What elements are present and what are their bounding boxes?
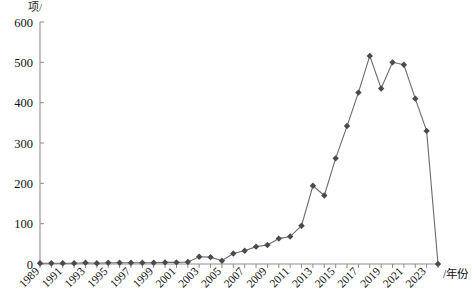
data-point-marker	[105, 260, 111, 266]
y-tick-label: 100	[14, 217, 33, 231]
x-tick-label: 2023	[403, 265, 428, 290]
data-series	[37, 53, 441, 268]
y-axis: 0100200300400500600	[14, 16, 44, 272]
data-point-marker	[355, 89, 361, 95]
x-tick-label: 2003	[176, 265, 201, 290]
x-tick-label: 1999	[130, 265, 155, 290]
y-tick-label: 400	[14, 96, 33, 110]
x-tick-label: 2007	[221, 265, 246, 290]
data-point-marker	[196, 254, 202, 260]
x-tick-label: 2005	[199, 265, 224, 290]
y-tick-label: 600	[14, 16, 33, 30]
data-point-marker	[389, 59, 395, 65]
x-tick-label: 2009	[244, 265, 269, 290]
x-tick-label: 2019	[358, 265, 383, 290]
data-point-marker	[71, 260, 77, 266]
data-point-marker	[230, 250, 236, 256]
data-point-marker	[241, 247, 247, 253]
data-point-marker	[48, 260, 54, 266]
data-point-marker	[207, 254, 213, 260]
x-tick-label: 2001	[153, 265, 178, 290]
x-tick-label: 2021	[381, 265, 406, 290]
data-point-marker	[401, 62, 407, 68]
x-tick-label: 2015	[312, 265, 337, 290]
x-tick-label: 1989	[17, 265, 42, 290]
data-point-marker	[378, 85, 384, 91]
x-axis: 1989199119931995199719992001200320052007…	[17, 264, 440, 290]
data-point-marker	[435, 261, 441, 267]
data-point-marker	[151, 260, 157, 266]
data-point-marker	[423, 128, 429, 134]
axis-captions: 项//年份	[28, 1, 469, 280]
data-point-marker	[264, 242, 270, 248]
x-tick-label: 2011	[267, 265, 292, 290]
data-point-marker	[94, 260, 100, 266]
data-point-marker	[412, 95, 418, 101]
line-chart: 0100200300400500600 19891991199319951997…	[0, 0, 472, 304]
x-axis-caption: /年份	[443, 267, 469, 280]
data-point-marker	[173, 259, 179, 265]
x-tick-label: 1995	[85, 265, 110, 290]
data-point-marker	[116, 260, 122, 266]
data-point-marker	[367, 53, 373, 59]
chart-canvas: 0100200300400500600 19891991199319951997…	[0, 0, 472, 304]
x-tick-label: 1997	[108, 265, 133, 290]
x-tick-label: 2013	[290, 265, 315, 290]
data-point-marker	[344, 123, 350, 129]
x-tick-label: 1991	[39, 265, 64, 290]
data-point-marker	[82, 260, 88, 266]
data-point-marker	[128, 260, 134, 266]
y-tick-label: 500	[14, 56, 33, 70]
x-tick-label: 2017	[335, 265, 360, 290]
y-axis-caption: 项/	[28, 1, 43, 13]
x-tick-label: 1993	[62, 265, 87, 290]
data-point-marker	[60, 260, 66, 266]
series-line	[40, 56, 438, 264]
data-point-marker	[276, 235, 282, 241]
data-point-marker	[139, 260, 145, 266]
data-point-marker	[37, 260, 43, 266]
y-tick-label: 200	[14, 177, 33, 191]
data-point-marker	[332, 155, 338, 161]
y-tick-label: 300	[14, 137, 33, 151]
data-point-marker	[162, 259, 168, 265]
data-point-marker	[253, 243, 259, 249]
data-point-marker	[219, 258, 225, 264]
